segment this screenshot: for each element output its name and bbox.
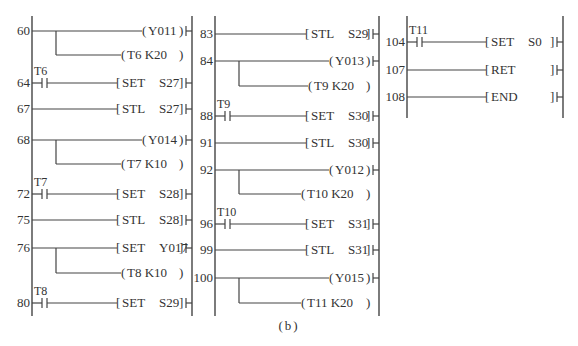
coil-operand: Y013 xyxy=(335,53,364,68)
rung-84: 84(Y013)(T9 K20) xyxy=(200,53,379,93)
instruction-op: SET xyxy=(122,240,145,255)
rung-72: 72T7[SETS28] xyxy=(17,175,192,201)
coil-operand: T11 K20 xyxy=(307,295,353,310)
coil-close: ) xyxy=(366,295,370,310)
coil-icon: (Y011) xyxy=(142,23,183,38)
step-number: 92 xyxy=(200,162,213,177)
coil-open: ( xyxy=(301,295,305,310)
instruction-op: RET xyxy=(491,62,516,77)
instruction-box: [STLS31] xyxy=(305,242,370,257)
rung-100: 100(Y015)(T11 K20) xyxy=(194,270,380,310)
coil-close: ) xyxy=(179,47,183,62)
contact-icon xyxy=(32,78,47,88)
instruction-operand: S28 xyxy=(159,212,179,227)
instruction-operand: Y017 xyxy=(159,240,188,255)
contact-label: T10 xyxy=(217,205,236,219)
step-number: 76 xyxy=(17,240,31,255)
instruction-op: STL xyxy=(122,101,145,116)
rung-104: 104T11[SETS0] xyxy=(386,23,564,49)
instruction-op: STL xyxy=(311,242,334,257)
rung-108: 108[END] xyxy=(386,89,564,104)
coil-close: ) xyxy=(179,132,183,147)
rung-76: 76[SETY017](T8 K10) xyxy=(17,240,192,280)
instruction-operand: S0 xyxy=(528,34,542,49)
coil-close: ) xyxy=(366,186,370,201)
instruction-box: [SETS30] xyxy=(305,108,370,123)
bracket-open: [ xyxy=(485,62,489,77)
coil-icon: (T7 K10) xyxy=(121,156,183,171)
contact-icon xyxy=(32,298,47,308)
coil-close: ) xyxy=(179,23,183,38)
coil-open: ( xyxy=(142,132,146,147)
ladder-diagram: 60(Y011)(T6 K20)64T6[SETS27]67[STLS27]68… xyxy=(0,0,578,346)
coil-open: ( xyxy=(329,53,333,68)
bracket-close: ] xyxy=(179,212,183,227)
step-number: 75 xyxy=(17,212,30,227)
instruction-op: SET xyxy=(311,108,334,123)
instruction-box: [SETS29] xyxy=(116,295,183,310)
instruction-op: STL xyxy=(311,135,334,150)
bracket-close: ] xyxy=(550,34,554,49)
rung-83: 83[STLS29] xyxy=(200,26,379,41)
coil-icon: (T8 K10) xyxy=(121,265,183,280)
step-number: 88 xyxy=(200,108,213,123)
step-number: 80 xyxy=(17,295,30,310)
instruction-operand: S29 xyxy=(159,295,179,310)
instruction-op: SET xyxy=(122,75,145,90)
instruction-box: [SETY017] xyxy=(116,240,188,255)
coil-icon: (T9 K20) xyxy=(308,78,370,93)
ladder-section-2: 83[STLS29]84(Y013)(T9 K20)88T9[SETS30]91… xyxy=(194,16,380,316)
contact-label: T6 xyxy=(34,64,47,78)
bracket-close: ] xyxy=(179,75,183,90)
step-number: 68 xyxy=(17,132,30,147)
instruction-operand: S27 xyxy=(159,101,180,116)
contact-icon xyxy=(407,37,422,47)
bracket-open: [ xyxy=(116,212,120,227)
coil-icon: (Y012) xyxy=(329,162,370,177)
contact-label: T8 xyxy=(34,284,47,298)
bracket-close: ] xyxy=(366,135,370,150)
bracket-open: [ xyxy=(116,295,120,310)
bracket-close: ] xyxy=(550,62,554,77)
coil-icon: (Y015) xyxy=(329,270,370,285)
coil-close: ) xyxy=(179,265,183,280)
step-number: 83 xyxy=(200,26,213,41)
contact-icon xyxy=(215,111,230,121)
coil-close: ) xyxy=(179,156,183,171)
instruction-op: STL xyxy=(311,26,334,41)
rung-96: 96T10[SETS31] xyxy=(200,205,379,231)
bracket-close: ] xyxy=(179,240,183,255)
bracket-open: [ xyxy=(305,108,309,123)
instruction-operand: S27 xyxy=(159,75,180,90)
instruction-box: [STLS29] xyxy=(305,26,370,41)
instruction-op: STL xyxy=(122,212,145,227)
coil-icon: (Y013) xyxy=(329,53,370,68)
bracket-close: ] xyxy=(179,101,183,116)
rung-88: 88T9[SETS30] xyxy=(200,97,379,123)
rung-92: 92(Y012)(T10 K20) xyxy=(200,162,379,201)
instruction-box: [RET] xyxy=(485,62,554,77)
contact-label: T11 xyxy=(409,23,428,37)
instruction-op: END xyxy=(491,89,518,104)
step-number: 107 xyxy=(386,62,406,77)
figure-caption: (b) xyxy=(0,318,578,334)
instruction-box: [STLS27] xyxy=(116,101,183,116)
rung-99: 99[STLS31] xyxy=(200,242,379,257)
contact-label: T9 xyxy=(217,97,230,111)
bracket-close: ] xyxy=(366,26,370,41)
coil-icon: (Y014) xyxy=(142,132,183,147)
step-number: 91 xyxy=(200,135,213,150)
ladder-section-3: 104T11[SETS0]107[RET]108[END] xyxy=(386,16,564,118)
coil-open: ( xyxy=(121,47,125,62)
step-number: 64 xyxy=(17,75,31,90)
bracket-open: [ xyxy=(116,75,120,90)
bracket-open: [ xyxy=(485,34,489,49)
instruction-box: [SETS28] xyxy=(116,186,183,201)
step-number: 99 xyxy=(200,242,213,257)
coil-icon: (T11 K20) xyxy=(301,295,370,310)
coil-open: ( xyxy=(121,265,125,280)
bracket-open: [ xyxy=(305,135,309,150)
coil-operand: T8 K10 xyxy=(127,265,167,280)
step-number: 100 xyxy=(194,270,214,285)
contact-icon xyxy=(215,219,230,229)
